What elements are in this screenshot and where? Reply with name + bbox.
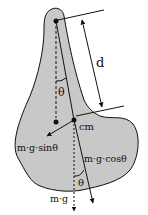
pendulum-diagram: θ d cm m·g·sinθ m·g·cosθ m·g θ	[0, 0, 148, 215]
radial-force-label: m·g·cosθ	[84, 153, 127, 164]
theta-bottom-label: θ	[78, 177, 84, 188]
tangential-force-label: m·g·sinθ	[17, 142, 58, 153]
weight-label: m·g	[50, 193, 68, 204]
vertical-marker-dot	[54, 120, 59, 125]
theta-top-label: θ	[58, 86, 65, 99]
distance-d-label: d	[96, 55, 104, 70]
cm-label: cm	[79, 121, 95, 132]
dimension-extension-top	[58, 10, 104, 20]
